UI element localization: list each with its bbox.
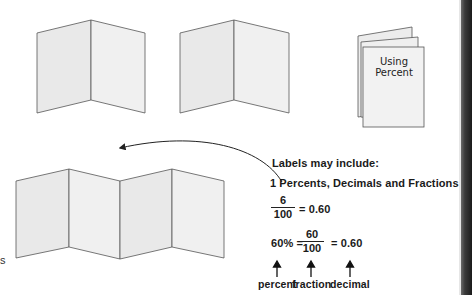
equation1-result: = 0.60 xyxy=(299,203,331,215)
numerator: 60 xyxy=(306,228,318,241)
booklet-title-line2: Percent xyxy=(364,67,424,78)
labels-item-1: 1 Percents, Decimals and Fractions xyxy=(270,177,459,189)
two-panel-fold-1 xyxy=(37,20,145,113)
fraction-6-over-100: 6 100 xyxy=(271,194,295,221)
denominator: 100 xyxy=(274,208,292,221)
four-panel-fold xyxy=(16,169,224,259)
foldable-illustrations xyxy=(0,0,472,295)
numerator: 6 xyxy=(280,194,286,207)
label-percent: percent xyxy=(258,278,297,290)
denominator: 100 xyxy=(303,242,321,255)
equation2-percent: 60% = xyxy=(271,237,303,249)
labels-heading: Labels may include: xyxy=(272,157,379,169)
booklet-title: Using Percent xyxy=(364,56,424,78)
book-spine-shadow xyxy=(461,0,472,295)
two-panel-fold-2 xyxy=(180,20,289,113)
label-fraction: fraction xyxy=(292,278,331,290)
cropped-text-fragment: s xyxy=(0,254,6,266)
label-decimal: decimal xyxy=(330,278,370,290)
fraction-60-over-100: 60 100 xyxy=(300,228,324,255)
booklet-title-line1: Using xyxy=(364,56,424,67)
equation2-result: = 0.60 xyxy=(331,237,363,249)
up-arrows xyxy=(274,261,354,277)
